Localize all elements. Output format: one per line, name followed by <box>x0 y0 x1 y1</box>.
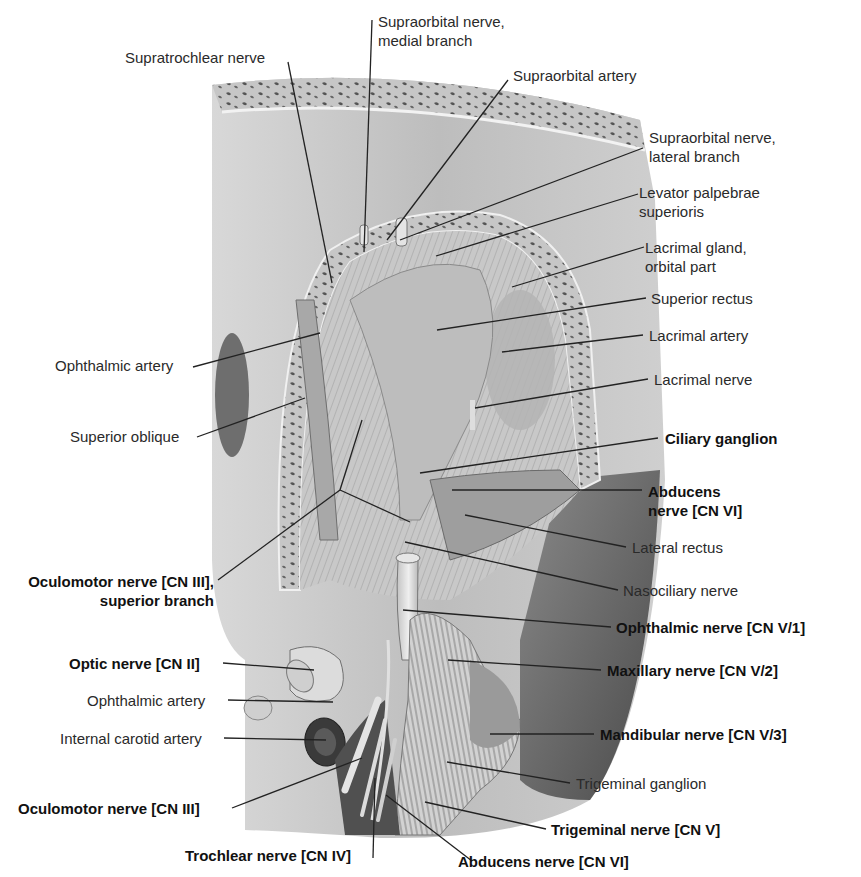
label-line: Oculomotor nerve [CN III], <box>4 572 214 591</box>
label-line: superioris <box>639 202 760 221</box>
label-line: Supraorbital nerve, <box>649 128 776 147</box>
label-ophthalmic-artery-upper: Ophthalmic artery <box>55 356 173 375</box>
label-lateral-rectus: Lateral rectus <box>632 538 723 557</box>
label-mandibular-nerve: Mandibular nerve [CN V/3] <box>600 725 787 744</box>
label-line: Abducens <box>648 482 742 501</box>
label-maxillary-nerve: Maxillary nerve [CN V/2] <box>607 661 778 680</box>
label-supratrochlear-nerve: Supratrochlear nerve <box>125 48 265 67</box>
label-trochlear-nerve: Trochlear nerve [CN IV] <box>185 846 351 865</box>
label-ophthalmic-artery-lower: Ophthalmic artery <box>87 691 205 710</box>
label-lacrimal-gland: Lacrimal gland, orbital part <box>645 238 747 276</box>
label-line: lateral branch <box>649 147 776 166</box>
label-superior-rectus: Superior rectus <box>651 289 753 308</box>
label-abducens-nerve-lower: Abducens nerve [CN VI] <box>458 852 629 871</box>
label-supraorbital-nerve-medial: Supraorbital nerve, medial branch <box>378 12 505 50</box>
label-lacrimal-nerve: Lacrimal nerve <box>654 370 752 389</box>
label-ophthalmic-nerve: Ophthalmic nerve [CN V/1] <box>616 618 805 637</box>
label-trigeminal-nerve: Trigeminal nerve [CN V] <box>551 820 720 839</box>
label-trigeminal-ganglion: Trigeminal ganglion <box>576 774 706 793</box>
label-ciliary-ganglion: Ciliary ganglion <box>665 429 778 448</box>
label-line: orbital part <box>645 257 747 276</box>
label-line: medial branch <box>378 31 505 50</box>
label-supraorbital-artery: Supraorbital artery <box>513 66 636 85</box>
label-line: Levator palpebrae <box>639 183 760 202</box>
label-nasociliary-nerve: Nasociliary nerve <box>623 581 738 600</box>
label-oculomotor-nerve: Oculomotor nerve [CN III] <box>18 799 200 818</box>
label-abducens-nerve-upper: Abducens nerve [CN VI] <box>648 482 742 520</box>
label-levator-palpebrae: Levator palpebrae superioris <box>639 183 760 221</box>
label-line: superior branch <box>4 591 214 610</box>
label-line: nerve [CN VI] <box>648 501 742 520</box>
label-internal-carotid-artery: Internal carotid artery <box>60 729 202 748</box>
label-oculomotor-superior-branch: Oculomotor nerve [CN III], superior bran… <box>4 572 214 610</box>
label-lacrimal-artery: Lacrimal artery <box>649 326 748 345</box>
label-superior-oblique: Superior oblique <box>70 427 179 446</box>
label-optic-nerve: Optic nerve [CN II] <box>69 654 200 673</box>
label-supraorbital-nerve-lateral: Supraorbital nerve, lateral branch <box>649 128 776 166</box>
label-line: Supraorbital nerve, <box>378 12 505 31</box>
label-line: Lacrimal gland, <box>645 238 747 257</box>
anatomical-figure: Supratrochlear nerve Supraorbital nerve,… <box>0 0 861 877</box>
